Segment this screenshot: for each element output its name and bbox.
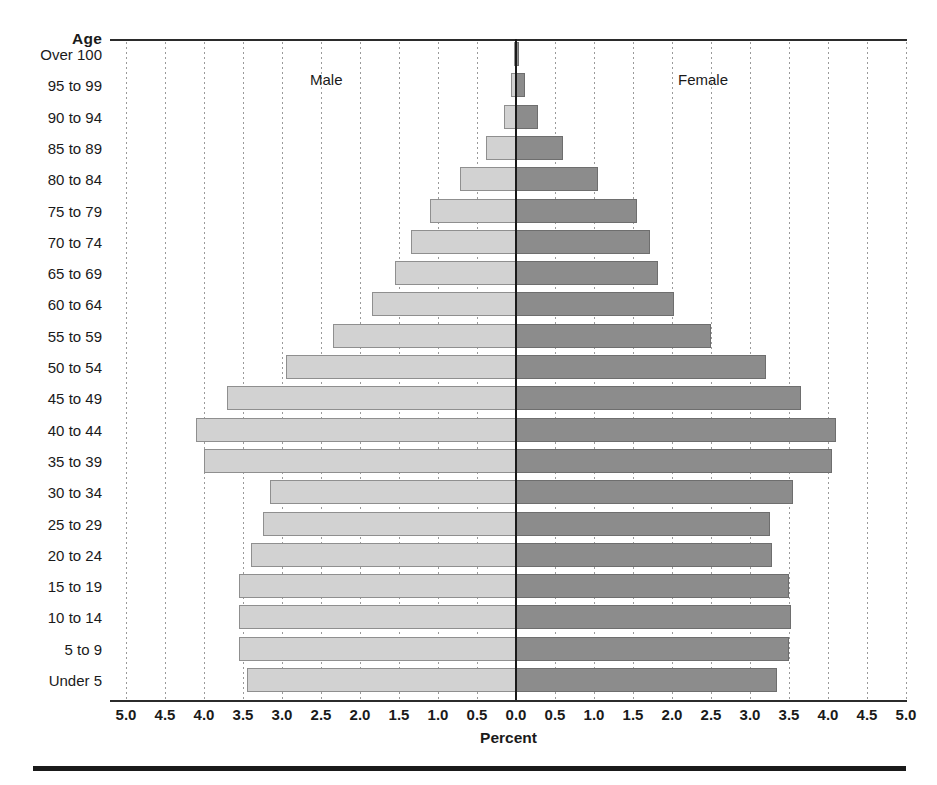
bar-row bbox=[110, 199, 907, 223]
bar-male bbox=[460, 167, 516, 191]
bar-row bbox=[110, 543, 907, 567]
bar-row bbox=[110, 355, 907, 379]
bar-row bbox=[110, 574, 907, 598]
bar-male bbox=[239, 574, 516, 598]
x-tick-label: 3.0 bbox=[740, 706, 761, 723]
bar-male bbox=[263, 512, 517, 536]
x-axis-title: Percent bbox=[110, 729, 907, 747]
footer-divider bbox=[33, 766, 906, 771]
x-tick-label: 3.5 bbox=[233, 706, 254, 723]
bar-row bbox=[110, 637, 907, 661]
x-tick-label: 2.5 bbox=[311, 706, 332, 723]
age-tick-label: 40 to 44 bbox=[0, 423, 102, 438]
plot-top-border bbox=[110, 39, 907, 41]
bar-female bbox=[516, 230, 650, 254]
x-tick-label: 0.5 bbox=[467, 706, 488, 723]
bar-female bbox=[516, 73, 525, 97]
age-tick-label: 65 to 69 bbox=[0, 266, 102, 281]
age-tick-label: 55 to 59 bbox=[0, 329, 102, 344]
age-tick-label: Over 100 bbox=[0, 47, 102, 62]
bar-male bbox=[333, 324, 516, 348]
bar-row bbox=[110, 167, 907, 191]
x-tick-label: 5.0 bbox=[116, 706, 137, 723]
bar-male bbox=[504, 105, 516, 129]
bar-row bbox=[110, 230, 907, 254]
bar-female bbox=[516, 167, 598, 191]
bar-female bbox=[516, 105, 538, 129]
bar-female bbox=[516, 637, 789, 661]
bar-row bbox=[110, 480, 907, 504]
bar-row bbox=[110, 418, 907, 442]
bar-female bbox=[516, 136, 563, 160]
age-tick-label: 95 to 99 bbox=[0, 78, 102, 93]
bar-row bbox=[110, 324, 907, 348]
age-tick-label: 90 to 94 bbox=[0, 110, 102, 125]
bar-row bbox=[110, 261, 907, 285]
x-tick-label: 2.5 bbox=[701, 706, 722, 723]
age-tick-label: 60 to 64 bbox=[0, 297, 102, 312]
x-tick-label: 4.0 bbox=[194, 706, 215, 723]
bar-female bbox=[516, 668, 777, 692]
bar-male bbox=[227, 386, 516, 410]
bar-row bbox=[110, 386, 907, 410]
x-tick-label: 4.5 bbox=[857, 706, 878, 723]
bar-male bbox=[486, 136, 516, 160]
bar-male bbox=[395, 261, 516, 285]
age-tick-label: 15 to 19 bbox=[0, 579, 102, 594]
x-tick-label: 1.0 bbox=[428, 706, 449, 723]
age-tick-label: 5 to 9 bbox=[0, 642, 102, 657]
series-label-female: Female bbox=[678, 71, 728, 88]
bar-female bbox=[516, 386, 801, 410]
bar-male bbox=[411, 230, 516, 254]
bar-row bbox=[110, 449, 907, 473]
bar-female bbox=[516, 480, 793, 504]
x-tick-label: 3.0 bbox=[272, 706, 293, 723]
age-tick-label: 35 to 39 bbox=[0, 454, 102, 469]
bar-male bbox=[239, 605, 516, 629]
x-tick-label: 2.0 bbox=[350, 706, 371, 723]
bar-female bbox=[516, 355, 766, 379]
bar-row bbox=[110, 605, 907, 629]
center-axis-line bbox=[515, 39, 517, 700]
age-tick-label: 20 to 24 bbox=[0, 548, 102, 563]
bar-row bbox=[110, 292, 907, 316]
bar-male bbox=[247, 668, 516, 692]
x-tick-label: 1.0 bbox=[584, 706, 605, 723]
bar-row bbox=[110, 668, 907, 692]
bar-female bbox=[516, 324, 711, 348]
age-tick-label: 25 to 29 bbox=[0, 517, 102, 532]
age-tick-label: 85 to 89 bbox=[0, 141, 102, 156]
x-axis-line bbox=[110, 700, 907, 702]
bar-row bbox=[110, 42, 907, 66]
bar-female bbox=[516, 199, 637, 223]
age-tick-label: 50 to 54 bbox=[0, 360, 102, 375]
bar-female bbox=[516, 449, 832, 473]
bar-row bbox=[110, 73, 907, 97]
x-tick-label: 1.5 bbox=[389, 706, 410, 723]
x-tick-label: 0.0 bbox=[506, 706, 527, 723]
bar-female bbox=[516, 418, 836, 442]
plot-area: Male Female bbox=[110, 39, 907, 700]
x-tick-label: 0.5 bbox=[545, 706, 566, 723]
bar-male bbox=[372, 292, 516, 316]
bar-female bbox=[516, 292, 674, 316]
age-tick-label: 70 to 74 bbox=[0, 235, 102, 250]
bar-male bbox=[196, 418, 516, 442]
x-tick-label: 4.5 bbox=[155, 706, 176, 723]
x-tick-label: 5.0 bbox=[896, 706, 917, 723]
age-tick-label: 45 to 49 bbox=[0, 391, 102, 406]
bar-female bbox=[516, 574, 789, 598]
bar-row bbox=[110, 512, 907, 536]
x-tick-label: 3.5 bbox=[779, 706, 800, 723]
age-tick-label: 80 to 84 bbox=[0, 172, 102, 187]
bar-male bbox=[239, 637, 516, 661]
x-tick-label: 1.5 bbox=[623, 706, 644, 723]
x-tick-label: 2.0 bbox=[662, 706, 683, 723]
bar-male bbox=[430, 199, 516, 223]
bar-male bbox=[286, 355, 516, 379]
bar-male bbox=[270, 480, 516, 504]
bar-female bbox=[516, 605, 791, 629]
bar-row bbox=[110, 105, 907, 129]
bar-female bbox=[516, 543, 772, 567]
bar-female bbox=[516, 261, 658, 285]
